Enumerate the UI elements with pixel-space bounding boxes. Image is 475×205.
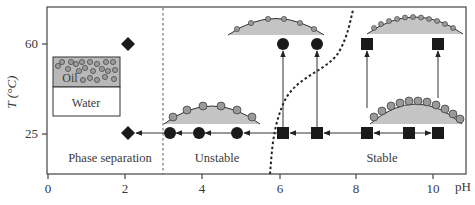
beaker-inset: Oil Water	[53, 57, 120, 116]
x-axis-label: pH	[455, 179, 471, 194]
droplet-unstable	[164, 102, 260, 124]
square-marker	[277, 127, 289, 139]
square-marker	[361, 127, 373, 139]
region-label-unstable: Unstable	[195, 151, 240, 165]
droplet-stable-top	[367, 15, 463, 35]
diagram-canvas: 60 25 T (°C) 0 2 4 6 8 10 pH Phase separ…	[0, 0, 475, 205]
x-tick-10: 10	[427, 181, 440, 196]
x-tick-6: 6	[277, 181, 284, 196]
region-label-stable: Stable	[366, 151, 398, 165]
droplet-stable-bottom	[370, 97, 464, 124]
beaker-oil-label: Oil	[62, 71, 78, 85]
circle-marker	[164, 127, 176, 139]
beaker-water-label: Water	[72, 96, 100, 110]
y-tick-60: 60	[25, 36, 38, 51]
circle-marker	[193, 127, 205, 139]
x-tick-0: 0	[45, 181, 52, 196]
square-marker	[432, 38, 444, 50]
region-label-phase-separation: Phase separation	[68, 151, 152, 165]
x-tick-8: 8	[353, 181, 360, 196]
diamond-marker	[121, 37, 135, 51]
circle-marker	[277, 38, 289, 50]
y-axis: 60 25 T (°C)	[4, 36, 47, 141]
square-marker	[403, 127, 415, 139]
x-axis: 0 2 4 6 8 10 pH	[45, 174, 471, 196]
diamond-marker	[121, 126, 135, 140]
circle-marker	[231, 127, 243, 139]
phase-diagram: 60 25 T (°C) 0 2 4 6 8 10 pH Phase separ…	[0, 0, 475, 205]
x-tick-4: 4	[199, 181, 206, 196]
y-tick-25: 25	[25, 126, 38, 141]
y-axis-label: T (°C)	[4, 76, 19, 109]
square-marker	[311, 127, 323, 139]
droplet-mid-top	[228, 16, 324, 35]
circle-marker	[311, 38, 323, 50]
x-tick-2: 2	[122, 181, 129, 196]
square-marker	[432, 127, 444, 139]
square-marker	[361, 38, 373, 50]
